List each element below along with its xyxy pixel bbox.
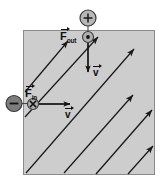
velocity-top-label: v (93, 68, 99, 78)
force-out-label-subscript: out (67, 37, 77, 44)
velocity-left-vector-arrowhead (71, 106, 74, 110)
force-in-label-subscript: in (32, 94, 37, 101)
force-in-label-base: F (25, 87, 32, 99)
velocity-left-label: v (65, 110, 71, 120)
force-out-label-base: F (60, 30, 67, 42)
force-in-label: Fin (25, 88, 37, 102)
force-in-vector-arrowhead (32, 84, 35, 88)
negative-charge (6, 96, 22, 112)
force-out-vector-arrowhead (67, 27, 70, 31)
force-out-label: Fout (60, 31, 76, 45)
positive-charge (80, 10, 96, 26)
physics-field-diagram: Fout Fin v v (0, 0, 164, 185)
velocity-top-vector-arrowhead (99, 64, 102, 68)
force-out-of-page-marker (83, 32, 94, 43)
